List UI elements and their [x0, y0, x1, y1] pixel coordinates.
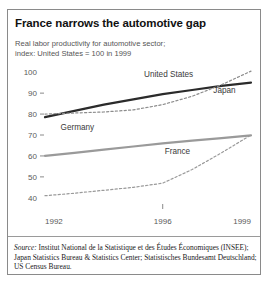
source-text: Institut National de la Statistique et d…: [14, 243, 257, 271]
y-axis-tick-label: 90: [28, 89, 37, 98]
chart-subtitle-line-2: index: United States = 100 in 1999: [15, 49, 245, 59]
chart-figure: France narrows the automotive gap Real l…: [0, 0, 270, 293]
plot-area: 405060708090100199219961999United States…: [15, 62, 253, 230]
chart-title: France narrows the automotive gap: [15, 17, 250, 30]
source-note: Source: Institut National de la Statisti…: [14, 243, 257, 272]
x-axis-tick-label: 1996: [154, 217, 172, 226]
y-axis-tick-label: 50: [28, 173, 37, 182]
x-axis-tick-label: 1999: [233, 217, 251, 226]
x-axis-tick-label: 1992: [45, 217, 63, 226]
source-divider: [8, 236, 260, 237]
source-label: Source:: [14, 243, 37, 252]
chart-subtitle: Real labor productivity for automotive s…: [15, 39, 245, 58]
line-chart-svg: 405060708090100199219961999United States…: [15, 62, 253, 230]
series-label-japan: Japan: [213, 86, 236, 95]
series-label-germany: Germany: [61, 123, 96, 132]
y-axis-tick-label: 80: [28, 110, 37, 119]
series-line-germany: [45, 135, 251, 156]
series-label-france: France: [165, 147, 191, 156]
y-axis-tick-label: 60: [28, 152, 37, 161]
y-axis-tick-label: 70: [28, 131, 37, 140]
y-axis-tick-label: 100: [24, 68, 38, 77]
series-label-united-states: United States: [144, 70, 193, 79]
y-axis-tick-label: 40: [28, 194, 37, 203]
chart-subtitle-line-1: Real labor productivity for automotive s…: [15, 39, 245, 49]
